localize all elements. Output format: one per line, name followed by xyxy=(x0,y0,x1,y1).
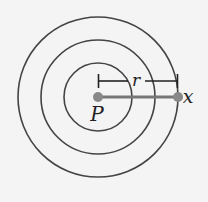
center-point-p xyxy=(93,92,103,102)
outer-point-x xyxy=(173,92,183,102)
point-label-x: x xyxy=(183,85,194,107)
distance-label-r: r xyxy=(132,70,141,90)
center-label-p: P xyxy=(89,102,104,126)
concentric-circles-diagram: r P x xyxy=(0,0,208,202)
